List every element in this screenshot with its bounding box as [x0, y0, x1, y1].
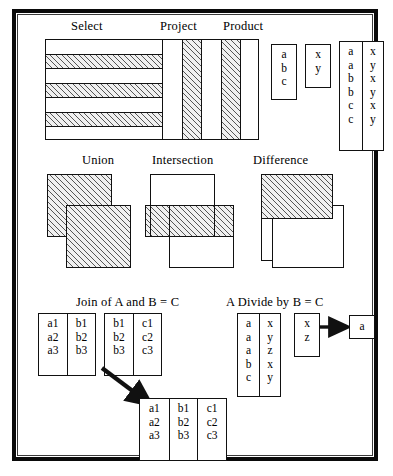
label-join: Join of A and B = C: [76, 296, 179, 309]
union-shape-b: [66, 205, 131, 268]
project-band-5: [241, 40, 260, 139]
project-diagram: [162, 39, 259, 140]
product-operand-a-table: a b c: [271, 44, 297, 100]
cell: x: [370, 45, 376, 59]
difference-left-tail: [261, 219, 273, 261]
cell: b: [281, 62, 287, 76]
label-select: Select: [71, 20, 103, 33]
cell: c2: [142, 331, 153, 345]
cell: y: [315, 62, 321, 76]
cell: b: [348, 72, 354, 86]
cell: c: [246, 371, 251, 385]
cell: y: [370, 113, 376, 127]
cell: a: [246, 317, 251, 331]
cell: a3: [149, 429, 160, 443]
cell: c: [281, 75, 286, 89]
project-band-1: [163, 40, 182, 139]
divide-result-table: a: [349, 315, 375, 339]
cell: a: [246, 344, 251, 358]
cell: x: [267, 358, 273, 372]
cell: b3: [178, 429, 190, 443]
cell: b2: [76, 331, 88, 345]
select-band-4: [46, 83, 164, 97]
intersection-divider-line: [169, 205, 170, 268]
figure-canvas: Select Project Product a b c: [0, 0, 393, 476]
difference-hatched-overlay: [261, 174, 333, 219]
cell: b1: [76, 317, 88, 331]
cell: c2: [207, 416, 218, 430]
project-band-4: [221, 40, 240, 139]
cell: a2: [48, 331, 59, 345]
label-project: Project: [160, 20, 197, 33]
cell: y: [267, 371, 273, 385]
select-band-3: [46, 69, 164, 83]
cell: z: [304, 331, 309, 345]
divide-table-b: x z: [294, 313, 320, 357]
cell: a: [348, 45, 353, 59]
cell: x: [267, 317, 273, 331]
join-table-a: a1 a2 a3 b1 b2 b3: [38, 313, 96, 376]
divide-table-a: a a a b c x y z x y: [237, 313, 281, 397]
product-operand-b-table: x y: [305, 44, 331, 88]
project-band-2: [182, 40, 201, 139]
label-product: Product: [223, 20, 263, 33]
cell: x: [315, 48, 321, 62]
cell: y: [370, 86, 376, 100]
cell: b2: [178, 416, 190, 430]
cell: y: [267, 331, 273, 345]
cell: a3: [48, 344, 59, 358]
cell: y: [370, 59, 376, 73]
cell: b3: [113, 344, 125, 358]
project-band-3: [202, 40, 221, 139]
cell: c1: [207, 402, 218, 416]
select-band-2: [46, 54, 164, 68]
cell: x: [304, 317, 310, 331]
relational-algebra-figure: Select Project Product a b c: [0, 0, 393, 476]
label-union: Union: [82, 154, 114, 167]
cell: a1: [48, 317, 59, 331]
cell: b1: [178, 402, 190, 416]
select-band-7: [46, 127, 164, 141]
divide-right-arrow-icon: [320, 320, 348, 334]
select-diagram: [45, 39, 165, 140]
label-intersection: Intersection: [152, 154, 213, 167]
cell: c: [348, 99, 353, 113]
cell: b3: [76, 344, 88, 358]
cell: x: [370, 72, 376, 86]
cell: z: [267, 344, 272, 358]
cell: c: [348, 113, 353, 127]
label-divide: A Divide by B = C: [226, 296, 324, 309]
cell: a2: [149, 416, 160, 430]
cell: a: [348, 59, 353, 73]
cell: b: [246, 358, 252, 372]
select-band-1: [46, 40, 164, 54]
cell: a1: [149, 402, 160, 416]
cell: a: [359, 320, 364, 334]
intersection-overlap-region: [145, 205, 234, 237]
select-band-5: [46, 98, 164, 112]
label-difference: Difference: [253, 154, 308, 167]
cell: c3: [207, 429, 218, 443]
cell: x: [370, 99, 376, 113]
cell: c3: [142, 344, 153, 358]
cell: b2: [113, 331, 125, 345]
cell: b1: [113, 317, 125, 331]
cell: a: [246, 331, 251, 345]
join-result-table: a1 a2 a3 b1 b2 b3 c1 c2 c3: [139, 398, 227, 461]
cell: a: [281, 48, 286, 62]
select-band-6: [46, 112, 164, 126]
cell: b: [348, 86, 354, 100]
cell: c1: [142, 317, 153, 331]
product-result-table: a a b b c c x y x y x y: [339, 41, 384, 151]
